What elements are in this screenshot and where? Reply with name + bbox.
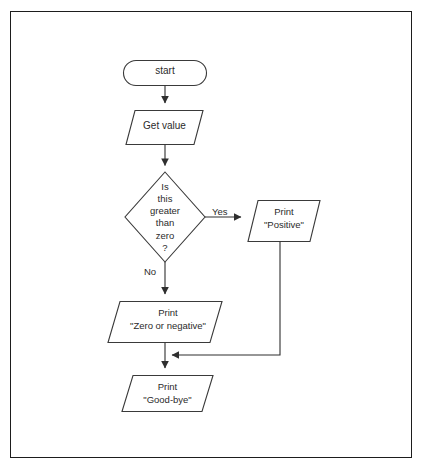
edge-label-yes: Yes — [212, 207, 228, 217]
node-print-positive-shape — [248, 201, 320, 242]
node-get-value-shape — [126, 111, 203, 145]
node-print-zero-negative-shape — [108, 302, 222, 343]
node-condition-shape — [125, 172, 205, 262]
node-print-goodbye-shape — [122, 376, 213, 412]
edge-label-no: No — [144, 267, 156, 277]
flowchart-canvas: start Get value Is this greater than zer… — [0, 0, 425, 472]
edge-print-positive-to-merge — [172, 242, 280, 356]
flowchart-graphics — [0, 0, 425, 472]
node-start-shape — [124, 61, 207, 86]
